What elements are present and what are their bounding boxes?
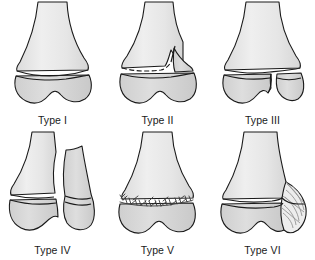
fracture-classification-figure: Type I xyxy=(0,0,315,260)
panel-type-3: Type III xyxy=(210,0,315,130)
type-5-shaft xyxy=(122,132,194,199)
panel-type-1: Type I xyxy=(0,0,105,130)
type-2-illustration xyxy=(105,0,210,112)
type-6-label: Type VI xyxy=(210,244,315,256)
type-5-label: Type V xyxy=(105,244,210,256)
type-5-epiphysis xyxy=(119,203,195,233)
panel-type-6: Type VI xyxy=(210,130,315,260)
type-3-label: Type III xyxy=(210,114,315,126)
type-4-illustration xyxy=(0,130,105,242)
type-1-shaft xyxy=(17,2,89,71)
type-1-illustration xyxy=(0,0,105,112)
type-3-illustration xyxy=(210,0,315,112)
type-5-illustration xyxy=(105,130,210,242)
type-6-shaft xyxy=(223,132,286,199)
type-4-shaft-medial xyxy=(11,132,56,195)
panel-type-5: Type V xyxy=(105,130,210,260)
type-6-illustration xyxy=(210,130,315,242)
type-4-fragment-lateral xyxy=(64,146,95,230)
type-4-label: Type IV xyxy=(0,244,105,256)
type-1-epiphysis xyxy=(15,75,91,103)
panel-type-2: Type II xyxy=(105,0,210,130)
type-2-label: Type II xyxy=(105,114,210,126)
type-6-perichondral-defect xyxy=(281,182,306,233)
type-6-epiphysis xyxy=(221,203,284,233)
panel-type-4: Type IV xyxy=(0,130,105,260)
type-3-epiphysis-fragment xyxy=(276,73,303,101)
type-3-shaft xyxy=(225,2,301,70)
type-1-label: Type I xyxy=(0,114,105,126)
